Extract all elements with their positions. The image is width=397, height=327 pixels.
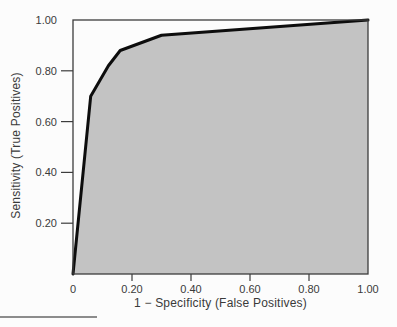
y-tick-label: 0.80 [36, 65, 57, 77]
y-tick-label: 0.20 [36, 217, 57, 229]
x-tick-label: 0 [70, 283, 76, 295]
x-tick-label: 0.40 [180, 283, 201, 295]
roc-figure: 00.200.400.600.801.000.200.400.600.801.0… [0, 0, 397, 327]
x-axis-title: 1 − Specificity (False Positives) [73, 296, 368, 310]
x-tick-label: 0.20 [121, 283, 142, 295]
y-axis-title: Sensitivity (True Positives) [9, 26, 24, 266]
x-tick-label: 0.80 [298, 283, 319, 295]
x-tick-label: 0.60 [239, 283, 260, 295]
y-tick-label: 0.40 [36, 166, 57, 178]
footnote-rule [0, 316, 97, 318]
y-tick-label: 0.60 [36, 116, 57, 128]
roc-plot-svg: 00.200.400.600.801.000.200.400.600.801.0… [0, 0, 397, 327]
y-tick-label: 1.00 [36, 14, 57, 26]
x-tick-label: 1.00 [357, 283, 378, 295]
roc-auc-area [73, 20, 368, 274]
